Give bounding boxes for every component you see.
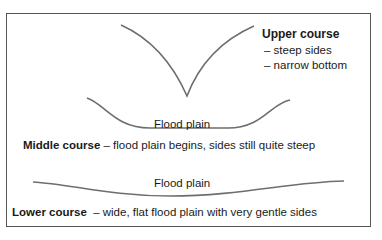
middle-course-title: Middle course	[23, 139, 100, 151]
lower-course-caption: Lower course – wide, flat flood plain wi…	[12, 205, 317, 219]
upper-course-point: – steep sides	[264, 43, 332, 57]
middle-course-description: – flood plain begins, sides still quite …	[100, 139, 315, 151]
lower-course-description: – wide, flat flood plain with very gentl…	[87, 206, 317, 218]
lower-course-title: Lower course	[12, 206, 87, 218]
middle-course-caption: Middle course – flood plain begins, side…	[23, 138, 315, 152]
upper-course-title: Upper course	[262, 27, 339, 41]
upper-course-point: – narrow bottom	[264, 58, 347, 72]
lower-floodplain-label: Flood plain	[154, 176, 210, 190]
upper-course-v-profile	[121, 25, 254, 96]
middle-floodplain-label: Flood plain	[154, 117, 210, 131]
